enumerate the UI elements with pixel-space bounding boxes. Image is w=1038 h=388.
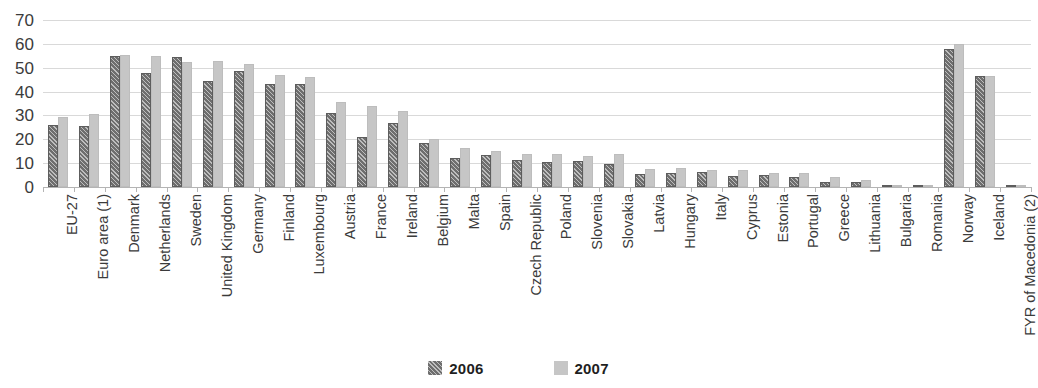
bar-group [969, 20, 1000, 187]
bar-2007[interactable] [799, 173, 809, 187]
bar-2006[interactable] [326, 113, 336, 187]
bar-2006[interactable] [975, 76, 985, 187]
x-axis-tickmark [105, 187, 106, 192]
bar-2006[interactable] [203, 81, 213, 187]
bar-2007[interactable] [120, 55, 130, 187]
bar-2006[interactable] [512, 160, 522, 187]
bar-group [444, 20, 475, 187]
bar-2006[interactable] [573, 161, 583, 187]
x-axis-category: Finland [259, 194, 290, 344]
legend-label: 2006 [449, 360, 483, 377]
bar-2006[interactable] [265, 84, 275, 187]
bar-2007[interactable] [58, 117, 68, 187]
bar-2007[interactable] [769, 173, 779, 187]
bar-2006[interactable] [110, 56, 120, 187]
bar-2007[interactable] [583, 156, 593, 187]
x-axis-category: Estonia [753, 194, 784, 344]
bar-2007[interactable] [985, 76, 995, 187]
x-axis-tickmark [1000, 187, 1001, 192]
legend-item[interactable]: 2006 [428, 360, 483, 377]
bar-group [938, 20, 969, 187]
bar-2006[interactable] [666, 173, 676, 187]
x-axis-tickmark [815, 187, 816, 192]
x-axis-tickmark [630, 187, 631, 192]
bar-2007[interactable] [707, 170, 717, 187]
x-axis-tickmark [938, 187, 939, 192]
x-axis-tickmark [228, 187, 229, 192]
bar-2006[interactable] [295, 84, 305, 187]
x-axis-category: Slovenia [568, 194, 599, 344]
x-axis-category: Lithuania [846, 194, 877, 344]
bar-2007[interactable] [429, 139, 439, 187]
bar-2006[interactable] [450, 158, 460, 187]
y-axis-tick-label: 0 [25, 179, 34, 196]
bar-2006[interactable] [789, 177, 799, 187]
bar-2006[interactable] [172, 57, 182, 187]
bar-2006[interactable] [357, 137, 367, 187]
x-axis-category: Ireland [383, 194, 414, 344]
bar-2007[interactable] [89, 114, 99, 187]
bar-2007[interactable] [244, 64, 254, 187]
bar-2007[interactable] [275, 75, 285, 187]
x-axis-category: Romania [908, 194, 939, 344]
y-axis-tick-label: 20 [15, 131, 34, 148]
x-axis-category: Poland [537, 194, 568, 344]
bar-2007[interactable] [213, 61, 223, 187]
bar-2007[interactable] [738, 170, 748, 187]
bars-layer [43, 20, 1031, 187]
bar-group [228, 20, 259, 187]
bar-2006[interactable] [419, 143, 429, 187]
bar-2007[interactable] [954, 44, 964, 187]
bar-2006[interactable] [481, 155, 491, 187]
bar-2006[interactable] [759, 175, 769, 187]
bar-2007[interactable] [398, 111, 408, 187]
bar-2007[interactable] [552, 154, 562, 187]
bar-group [630, 20, 661, 187]
x-axis-tickmark [506, 187, 507, 192]
bar-2007[interactable] [645, 169, 655, 187]
bar-group [908, 20, 939, 187]
bar-2007[interactable] [182, 62, 192, 187]
bar-2006[interactable] [234, 71, 244, 187]
bar-2006[interactable] [697, 172, 707, 188]
x-axis-category: Belgium [414, 194, 445, 344]
x-axis-tickmark [383, 187, 384, 192]
bar-2007[interactable] [830, 177, 840, 187]
bar-2007[interactable] [614, 154, 624, 187]
x-axis-tickmark [877, 187, 878, 192]
bar-group [691, 20, 722, 187]
bar-2006[interactable] [604, 164, 614, 187]
bar-2007[interactable] [367, 106, 377, 187]
bar-2007[interactable] [522, 154, 532, 187]
x-axis-category: Malta [444, 194, 475, 344]
bar-2006[interactable] [141, 73, 151, 188]
bar-2006[interactable] [635, 174, 645, 187]
bar-2007[interactable] [305, 77, 315, 187]
bar-2006[interactable] [542, 162, 552, 187]
bar-2006[interactable] [728, 176, 738, 187]
x-axis-tickmark [722, 187, 723, 192]
y-axis-tick-label: 70 [15, 12, 34, 29]
bar-2007[interactable] [460, 148, 470, 187]
bar-2007[interactable] [151, 56, 161, 187]
x-axis-tickmark [414, 187, 415, 192]
x-axis-tickmark [784, 187, 785, 192]
bar-2007[interactable] [861, 180, 871, 187]
bar-2007[interactable] [676, 168, 686, 187]
bar-2006[interactable] [944, 49, 954, 187]
bar-group [877, 20, 908, 187]
bar-2006[interactable] [388, 123, 398, 187]
x-axis-tickmark [321, 187, 322, 192]
bar-group [197, 20, 228, 187]
x-axis-category: Cyprus [722, 194, 753, 344]
x-axis-category: Luxembourg [290, 194, 321, 344]
bar-2007[interactable] [491, 151, 501, 187]
y-axis-tick-label: 30 [15, 107, 34, 124]
legend-item[interactable]: 2007 [554, 360, 609, 377]
bar-2007[interactable] [336, 102, 346, 187]
bar-2006[interactable] [79, 126, 89, 187]
bar-2006[interactable] [48, 125, 58, 187]
x-axis-category: EU-27 [43, 194, 74, 344]
x-axis-category: FYR of Macedonia (2) [1000, 194, 1031, 344]
x-axis-tickmark [259, 187, 260, 192]
